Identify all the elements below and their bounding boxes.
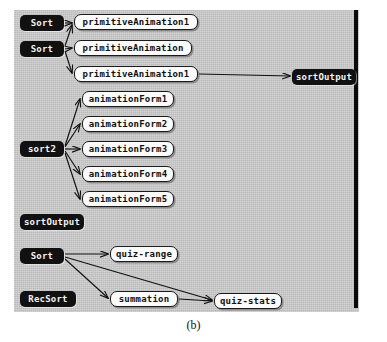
- node-label: animationForm2: [89, 119, 168, 129]
- edge-sort_b-prim1: [65, 25, 72, 46]
- node-af4[interactable]: animationForm4: [82, 166, 174, 182]
- edge-summation-quizstats: [179, 299, 212, 301]
- node-quizstats[interactable]: quiz-stats: [214, 293, 282, 309]
- node-af1[interactable]: animationForm1: [82, 91, 174, 107]
- node-label: animationForm3: [89, 144, 168, 154]
- node-label: animationForm1: [89, 94, 168, 104]
- node-sort_b[interactable]: Sort: [20, 41, 64, 57]
- edge-sort2-af1: [65, 99, 80, 146]
- node-sortout_r[interactable]: sortOutput: [292, 69, 356, 85]
- node-sort2[interactable]: sort2: [20, 141, 64, 157]
- node-label: primitiveAnimation: [82, 43, 183, 53]
- node-label: summation: [119, 294, 170, 304]
- node-label: primitiveAnimation1: [83, 69, 190, 79]
- node-label: sort2: [28, 144, 56, 154]
- figure-caption: (b): [0, 318, 387, 333]
- node-af5[interactable]: animationForm5: [82, 191, 174, 207]
- node-label: sortOutput: [296, 72, 352, 82]
- node-label: Sort: [31, 18, 53, 28]
- node-sort_c[interactable]: Sort: [20, 248, 64, 264]
- node-label: Sort: [31, 251, 53, 261]
- node-quizrange[interactable]: quiz-range: [110, 246, 178, 262]
- edge-sort2-af4: [65, 151, 80, 174]
- node-sort_a[interactable]: Sort: [20, 15, 64, 31]
- node-label: quiz-stats: [220, 296, 276, 306]
- node-label: sortOutput: [24, 217, 80, 227]
- node-label: primitiveAnimation1: [83, 17, 190, 27]
- edge-sort_b-prim2: [65, 48, 72, 49]
- edge-sort2-af5: [65, 153, 80, 199]
- node-prim2[interactable]: primitiveAnimation: [74, 40, 192, 56]
- node-recsort[interactable]: RecSort: [20, 291, 76, 307]
- node-prim1[interactable]: primitiveAnimation1: [74, 14, 198, 30]
- edge-group: [65, 23, 290, 301]
- edge-sort2-af2: [65, 124, 80, 147]
- node-label: quiz-range: [116, 249, 172, 259]
- node-label: Sort: [31, 44, 53, 54]
- node-sortout_l[interactable]: sortOutput: [20, 214, 84, 230]
- node-af3[interactable]: animationForm3: [82, 141, 174, 157]
- node-prim3[interactable]: primitiveAnimation1: [74, 66, 198, 82]
- node-label: RecSort: [28, 294, 67, 304]
- edge-prim3-sortout_r: [199, 74, 290, 76]
- figure-container: SortSortprimitiveAnimation1primitiveAnim…: [0, 0, 387, 342]
- node-summation[interactable]: summation: [110, 291, 178, 307]
- node-af2[interactable]: animationForm2: [82, 116, 174, 132]
- edge-sort_b-prim3: [65, 51, 72, 73]
- node-label: animationForm5: [89, 194, 168, 204]
- node-label: animationForm4: [89, 169, 168, 179]
